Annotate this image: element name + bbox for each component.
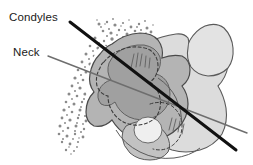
label-neck: Neck	[13, 47, 40, 59]
label-condyles: Condyles	[9, 12, 58, 24]
coronoid-process	[187, 24, 233, 76]
anatomical-diagram-svg	[0, 0, 253, 165]
sigmoid-notch-circle	[134, 117, 162, 143]
figure-canvas: Condyles Neck	[0, 0, 253, 165]
